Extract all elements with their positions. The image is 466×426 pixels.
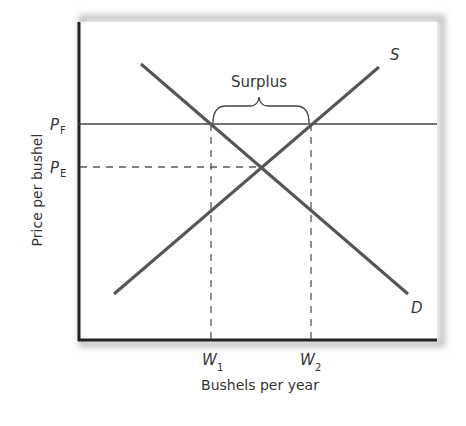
w1-label: W 1 — [202, 351, 223, 373]
plot-area — [79, 22, 437, 340]
price-floor-diagram: Surplus S D P F P E W 1 W 2 Bushels per … — [0, 0, 466, 426]
svg-text:W: W — [202, 351, 218, 369]
demand-label: D — [411, 299, 423, 317]
price-floor-label: P F — [50, 116, 66, 136]
surplus-label: Surplus — [231, 73, 287, 91]
x-axis-label: Bushels per year — [201, 377, 319, 393]
svg-text:1: 1 — [217, 362, 223, 373]
svg-text:P: P — [50, 116, 60, 134]
svg-text:W: W — [300, 351, 316, 369]
y-axis-label: Price per bushel — [29, 134, 45, 247]
svg-text:2: 2 — [315, 362, 321, 373]
w2-label: W 2 — [300, 351, 321, 373]
svg-text:E: E — [60, 168, 66, 179]
supply-label: S — [390, 46, 400, 64]
equilibrium-price-label: P E — [50, 159, 66, 179]
svg-text:P: P — [50, 159, 60, 177]
svg-text:F: F — [60, 125, 66, 136]
